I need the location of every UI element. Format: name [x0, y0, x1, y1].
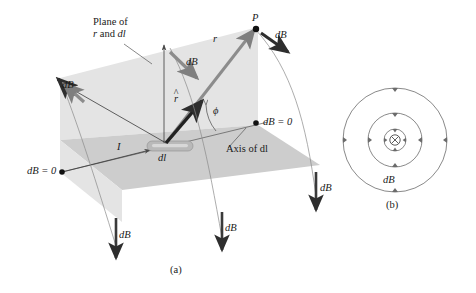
panel-b [343, 88, 447, 192]
current-into-page-icon [390, 135, 400, 145]
unit-vector-r-hat-label: ^r [174, 93, 178, 105]
current-element-dl [147, 141, 193, 151]
plane-of-r-and-dl [60, 27, 258, 140]
point-p-label: P [252, 12, 258, 24]
db-text: dB [275, 29, 287, 40]
db-label-top-left: dB [62, 79, 74, 91]
db-zero-left-label: dB = 0 [27, 165, 56, 177]
db-text: dB [383, 174, 395, 185]
db-zero-text: dB = 0 [27, 165, 56, 176]
db-text: dB [320, 182, 332, 193]
db-zero-text: dB = 0 [263, 116, 292, 127]
plane-of-r-and-dl-label: Plane of r and dl [93, 16, 128, 40]
axis-text: Axis of dl [226, 143, 268, 154]
db-text: dB [225, 222, 237, 233]
db-text: dB [119, 229, 131, 240]
db-text: dB [62, 79, 74, 90]
plane-label-and: and [97, 28, 117, 39]
db-zero-right-label: dB = 0 [263, 116, 292, 128]
axis-of-dl-label: Axis of dl [226, 143, 268, 155]
db-text: dB [186, 56, 198, 67]
panel-a-caption: (a) [170, 264, 182, 276]
db-label-at-p: dB [275, 29, 287, 41]
current-I-label: I [117, 141, 121, 153]
db-label-bottom-middle: dB [225, 222, 237, 234]
db-zero-left-marker [59, 169, 65, 175]
point-p-marker [253, 26, 259, 32]
db-zero-right-marker [253, 120, 259, 126]
db-label-upper-middle: dB [186, 56, 198, 68]
db-label-bottom-right: dB [320, 182, 332, 194]
angle-phi-label: ϕ [213, 105, 218, 117]
plane-label-dl: dl [118, 28, 126, 39]
vector-r-label: r [213, 33, 217, 45]
panel-b-db-label: dB [383, 174, 395, 186]
element-dl-label: dl [158, 152, 166, 164]
hat-accent: ^ [174, 87, 179, 98]
db-label-bottom-left: dB [119, 229, 131, 241]
plane-label-line1: Plane of [93, 16, 128, 27]
panel-b-caption: (b) [386, 199, 398, 211]
